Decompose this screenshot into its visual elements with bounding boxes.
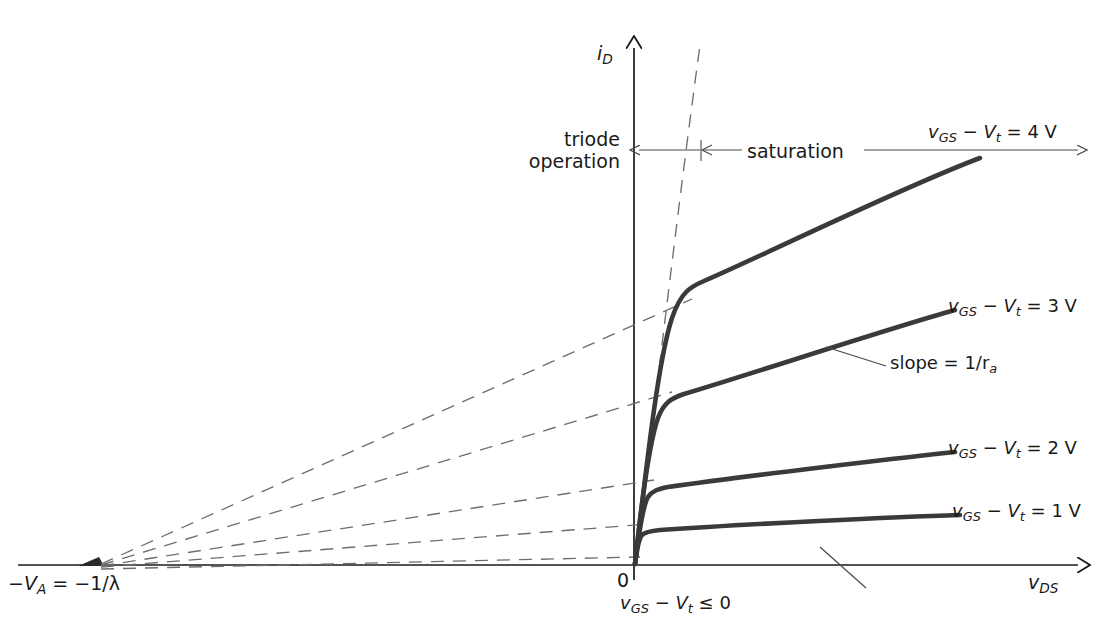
cutoff-annotation: vGS − Vt ≤ 0 xyxy=(620,592,731,616)
mosfet-characteristics-figure: iD vDS 0 triode operation saturation vGS… xyxy=(0,0,1109,636)
early-voltage-rest: = −1/λ xyxy=(46,572,120,594)
figure-canvas xyxy=(0,0,1109,636)
slope-annotation-text: slope = 1/r xyxy=(890,352,989,373)
slope-annotation-sub: a xyxy=(989,361,997,376)
cutoff-rest: ≤ 0 xyxy=(693,592,731,613)
dashed-extrapolation-group xyxy=(101,299,692,569)
curve-2v xyxy=(635,452,955,564)
origin-label: 0 xyxy=(617,569,629,591)
cutoff-sub1: GS xyxy=(631,601,649,616)
curve-label-2v-sub1: GS xyxy=(959,446,977,461)
y-axis-label-sub: D xyxy=(602,51,613,67)
extrapolation-4v xyxy=(101,299,692,564)
x-axis-label-sub: DS xyxy=(1039,580,1058,596)
curve-label-4v-prefix: v xyxy=(928,121,939,142)
curve-label-1v-rest: = 1 V xyxy=(1025,500,1081,521)
curve-3v xyxy=(635,310,955,564)
slope-leader-line xyxy=(826,347,886,366)
extrapolation-3v xyxy=(101,392,672,565)
curve-label-3v-rest: = 3 V xyxy=(1021,295,1077,316)
triode-region-label-line2: operation xyxy=(452,150,620,172)
curve-label-4v-mid: − V xyxy=(957,121,996,142)
early-voltage-marker xyxy=(78,557,104,566)
curve-label-3v: vGS − Vt = 3 V xyxy=(948,295,1077,319)
extrapolation-2v xyxy=(101,480,654,566)
curve-label-1v-mid: − V xyxy=(981,500,1020,521)
curve-label-3v-prefix: v xyxy=(948,295,959,316)
curve-label-3v-sub1: GS xyxy=(959,304,977,319)
extrapolation-cutoff xyxy=(101,557,640,569)
cutoff-mid: − V xyxy=(649,592,688,613)
curve-label-3v-mid: − V xyxy=(977,295,1016,316)
curve-label-2v-mid: − V xyxy=(977,437,1016,458)
slope-annotation: slope = 1/ra xyxy=(890,352,997,376)
curve-1v xyxy=(635,515,960,564)
triode-region-label-line1: triode xyxy=(452,128,620,150)
y-axis-label: iD xyxy=(597,42,613,67)
curve-label-2v: vGS − Vt = 2 V xyxy=(948,437,1077,461)
early-voltage-sub: A xyxy=(37,581,46,597)
curve-label-1v-sub1: GS xyxy=(963,509,981,524)
triode-region-label: triode operation xyxy=(452,128,620,173)
early-voltage-prefix: −V xyxy=(8,572,37,594)
curve-label-2v-rest: = 2 V xyxy=(1021,437,1077,458)
extrapolation-1v xyxy=(101,524,648,567)
cutoff-leader-line xyxy=(820,547,866,588)
curve-label-2v-prefix: v xyxy=(948,437,959,458)
curve-label-4v-sub1: GS xyxy=(939,130,957,145)
saturation-region-label: saturation xyxy=(747,140,844,162)
curve-label-1v: vGS − Vt = 1 V xyxy=(952,500,1081,524)
cutoff-prefix: v xyxy=(620,592,631,613)
x-axis-label: vDS xyxy=(1028,571,1058,596)
curve-label-4v-rest: = 4 V xyxy=(1001,121,1057,142)
curve-label-4v: vGS − Vt = 4 V xyxy=(928,121,1057,145)
early-voltage-label: −VA = −1/λ xyxy=(8,572,120,597)
x-axis-label-main: v xyxy=(1028,571,1039,593)
curve-label-1v-prefix: v xyxy=(952,500,963,521)
